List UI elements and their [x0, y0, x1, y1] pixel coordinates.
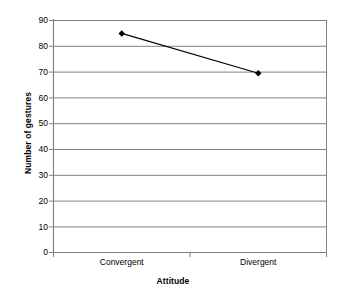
x-axis-ticks	[54, 253, 327, 258]
chart-container: Number of gestures 90 80 70 60 50 40 30 …	[0, 0, 346, 300]
x-axis-title: Attitude	[0, 276, 346, 286]
series-line-segment	[122, 33, 259, 73]
x-category-label-divergent: Divergent	[240, 258, 276, 267]
data-point-divergent[interactable]	[255, 70, 262, 77]
gridlines	[53, 21, 327, 227]
x-category-label-convergent: Convergent	[100, 258, 144, 267]
data-series-number-of-gestures	[118, 30, 261, 76]
plot-area	[0, 0, 346, 300]
data-point-convergent[interactable]	[118, 30, 125, 37]
y-axis-ticks	[49, 21, 53, 253]
